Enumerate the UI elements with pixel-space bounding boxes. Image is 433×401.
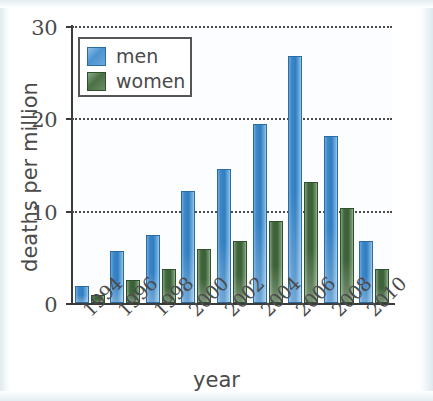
scan-edge-tint-right [419, 0, 433, 401]
legend-label-women: women [116, 72, 185, 91]
chart-page: 0102030 men women 1994199619982000200220… [0, 0, 433, 401]
scan-edge-tint-top [0, 0, 433, 8]
blue-swatch-icon [87, 47, 106, 66]
legend-label-men: men [116, 47, 158, 66]
scan-edge-tint-left [0, 0, 10, 401]
legend-item-women: women [87, 69, 190, 94]
x-axis-title: year [0, 368, 433, 392]
y-tick-label-0: 0 [44, 293, 57, 317]
legend: men women [78, 37, 192, 97]
scan-edge-tint-bottom [0, 391, 433, 401]
x-tick-labels: 199419961998200020022004200620082010 [72, 305, 392, 365]
green-swatch-icon [87, 72, 106, 91]
legend-item-men: men [87, 44, 190, 69]
y-tick-label-30: 30 [31, 16, 57, 40]
bar-men-2006 [288, 56, 302, 303]
y-axis-title: deaths per million [18, 57, 42, 297]
